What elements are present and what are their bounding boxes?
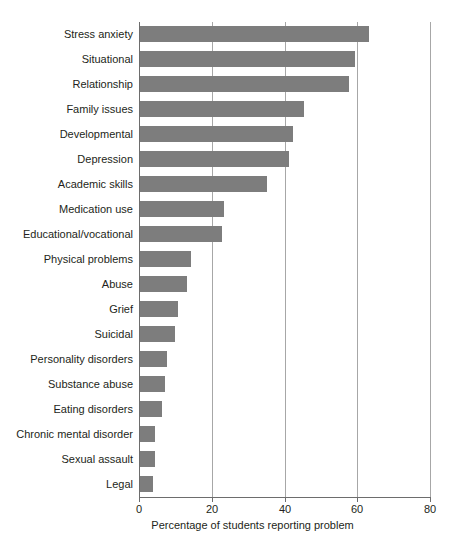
x-tick-80 [430, 497, 431, 502]
category-label: Suicidal [0, 328, 133, 341]
category-label: Abuse [0, 278, 133, 291]
bar [140, 326, 175, 342]
category-label: Sexual assault [0, 453, 133, 466]
x-tick-20 [212, 497, 213, 502]
x-tick-label-40: 40 [279, 503, 291, 516]
bar-row: Family issues [0, 97, 461, 122]
category-label: Developmental [0, 128, 133, 141]
category-label: Grief [0, 303, 133, 316]
x-tick-0 [139, 497, 140, 502]
bar-row: Medication use [0, 197, 461, 222]
bar [140, 201, 224, 217]
bar [140, 376, 165, 392]
x-axis-title-text: Percentage of students reporting problem [107, 518, 353, 532]
bar-chart: 0 20 40 60 80 Stress anxietySituationalR… [0, 0, 461, 545]
bar-rows: Stress anxietySituationalRelationshipFam… [0, 22, 461, 497]
bar-row: Academic skills [0, 172, 461, 197]
category-label: Medication use [0, 203, 133, 216]
bar-row: Educational/vocational [0, 222, 461, 247]
bar [140, 151, 289, 167]
bar [140, 226, 222, 242]
category-label: Depression [0, 153, 133, 166]
category-label: Substance abuse [0, 378, 133, 391]
bar [140, 101, 304, 117]
category-label: Educational/vocational [0, 228, 133, 241]
x-tick-label-0: 0 [136, 503, 142, 516]
category-label: Eating disorders [0, 403, 133, 416]
category-label: Physical problems [0, 253, 133, 266]
bar-row: Grief [0, 297, 461, 322]
bar-row: Suicidal [0, 322, 461, 347]
bar-row: Developmental [0, 122, 461, 147]
category-label: Academic skills [0, 178, 133, 191]
x-tick-60 [357, 497, 358, 502]
bar [140, 451, 155, 467]
x-axis-title: Percentage of students reporting problem [0, 518, 461, 532]
x-tick-label-60: 60 [351, 503, 363, 516]
category-label: Family issues [0, 103, 133, 116]
category-label: Relationship [0, 78, 133, 91]
bar-row: Relationship [0, 72, 461, 97]
x-tick-label-80: 80 [424, 503, 436, 516]
bar [140, 476, 153, 492]
bar-row: Legal [0, 472, 461, 497]
category-label: Personality disorders [0, 353, 133, 366]
bar-row: Abuse [0, 272, 461, 297]
bar [140, 76, 349, 92]
bar-row: Depression [0, 147, 461, 172]
bar [140, 276, 187, 292]
bar [140, 51, 355, 67]
bar-row: Situational [0, 47, 461, 72]
bar-row: Eating disorders [0, 397, 461, 422]
x-tick-40 [285, 497, 286, 502]
bar [140, 26, 369, 42]
bar-row: Personality disorders [0, 347, 461, 372]
category-label: Stress anxiety [0, 28, 133, 41]
bar [140, 301, 178, 317]
bar-row: Physical problems [0, 247, 461, 272]
bar [140, 351, 167, 367]
bar [140, 176, 267, 192]
bar-row: Chronic mental disorder [0, 422, 461, 447]
bar [140, 426, 155, 442]
x-tick-label-20: 20 [206, 503, 218, 516]
bar [140, 126, 293, 142]
bar-row: Substance abuse [0, 372, 461, 397]
bar [140, 401, 162, 417]
bar-row: Sexual assault [0, 447, 461, 472]
bar [140, 251, 191, 267]
category-label: Legal [0, 478, 133, 491]
category-label: Chronic mental disorder [0, 428, 133, 441]
bar-row: Stress anxiety [0, 22, 461, 47]
category-label: Situational [0, 53, 133, 66]
